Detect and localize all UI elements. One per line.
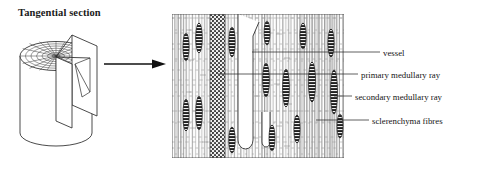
- primary-medullary-ray: [210, 14, 225, 158]
- secondary-medullary-ray: [283, 69, 290, 107]
- figure-canvas: [0, 0, 477, 172]
- secondary-medullary-ray: [196, 23, 203, 53]
- secondary-medullary-ray: [308, 62, 315, 102]
- figure-root: Tangential section: [0, 0, 477, 172]
- secondary-medullary-ray: [337, 114, 343, 138]
- secondary-medullary-ray: [196, 96, 203, 130]
- tangential-section-micrograph: [172, 14, 358, 158]
- flow-arrow: [104, 59, 166, 68]
- secondary-medullary-ray: [183, 99, 189, 131]
- secondary-medullary-ray: [229, 27, 235, 57]
- secondary-medullary-ray: [300, 23, 306, 49]
- secondary-medullary-ray: [183, 33, 189, 61]
- label-primary-medullary-ray: primary medullary ray: [361, 70, 440, 80]
- wood-cylinder-block: [20, 35, 97, 146]
- label-sclerenchyma-fibres: sclerenchyma fibres: [372, 116, 443, 126]
- secondary-medullary-ray: [294, 115, 300, 143]
- secondary-medullary-ray: [328, 29, 334, 57]
- label-secondary-medullary-ray: secondary medullary ray: [355, 92, 442, 102]
- secondary-medullary-ray: [269, 125, 275, 151]
- secondary-medullary-ray: [264, 21, 270, 45]
- secondary-medullary-ray: [263, 63, 270, 97]
- label-vessel: vessel: [383, 48, 405, 58]
- secondary-medullary-ray: [229, 127, 235, 153]
- secondary-medullary-ray: [331, 70, 338, 114]
